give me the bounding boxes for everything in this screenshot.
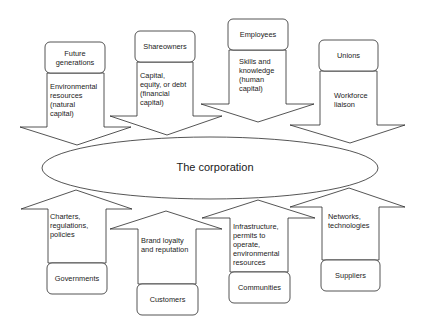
corporation-label: The corporation [160, 161, 270, 173]
stakeholder-label-employees: Employees [228, 19, 288, 50]
contribution-label-financial-capital: Capital, equity, or debt (financial capi… [140, 71, 196, 107]
stakeholder-label-customers: Customers [137, 284, 198, 315]
stakeholder-label-communities: Communities [229, 272, 290, 303]
contribution-label-charters: Charters, regulations, policies [50, 212, 106, 239]
stakeholder-label-governments: Governments [47, 263, 107, 294]
contribution-label-human-capital: Skills and knowledge (human capital) [239, 57, 289, 93]
stakeholder-label-shareowners: Shareowners [135, 31, 195, 62]
contribution-label-infrastructure: Infrastructure, permits to operate, envi… [233, 222, 289, 267]
contribution-label-brand-loyalty: Brand loyalty and reputation [141, 236, 197, 254]
stakeholder-text: Future generations [55, 49, 95, 67]
stakeholder-label-unions: Unions [319, 40, 378, 71]
contribution-label-networks: Networks, technologies [328, 212, 380, 230]
stakeholder-label-future-generations: Future generations [45, 42, 105, 73]
stakeholder-diagram: The corporation Future generations Share… [0, 0, 424, 329]
stakeholder-label-suppliers: Suppliers [321, 260, 380, 291]
contribution-label-natural-capital: Environmental resources (natural capital… [50, 82, 106, 118]
contribution-label-workforce-liaison: Workforce liaison [334, 91, 378, 109]
